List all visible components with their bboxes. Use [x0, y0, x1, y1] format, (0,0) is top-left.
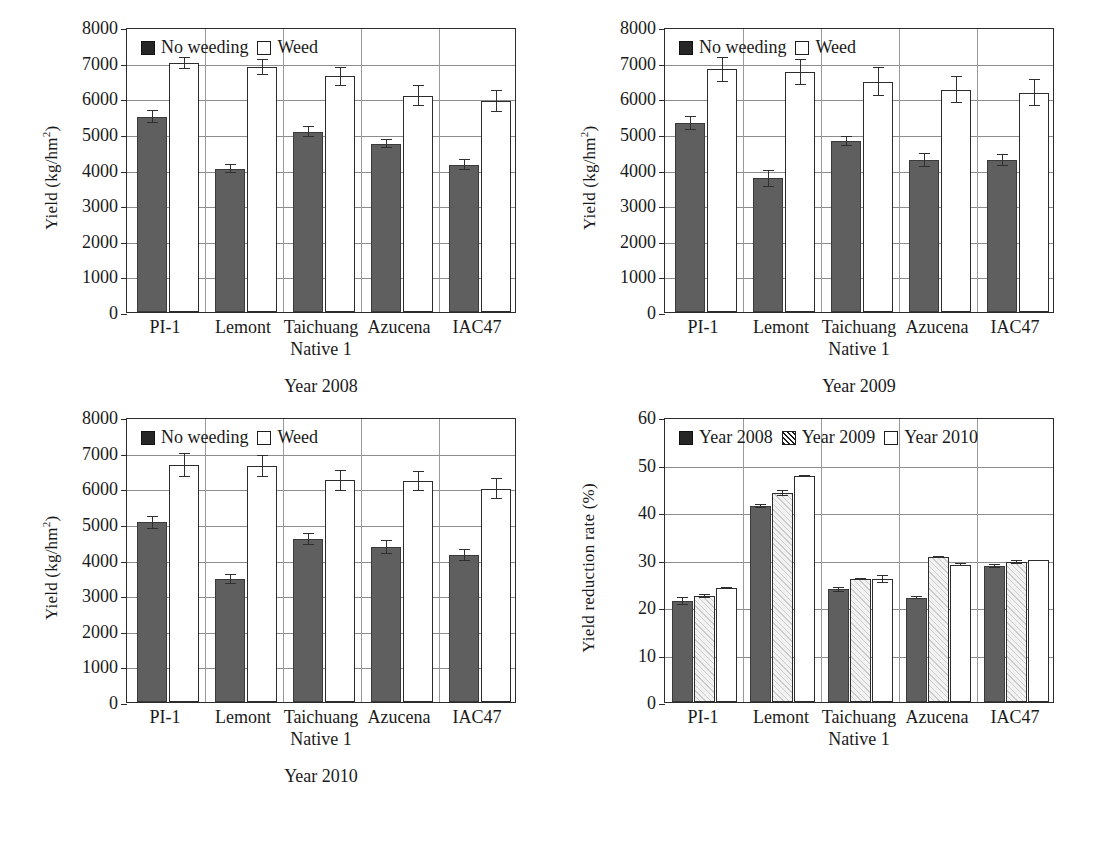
error-bar-cap-bottom [763, 186, 774, 187]
bar [169, 63, 199, 312]
error-bar [386, 139, 387, 148]
bar [863, 82, 893, 312]
y-tick-label: 5000 [82, 126, 118, 144]
error-bar-cap-top [335, 67, 346, 68]
y-tick-label: 2000 [82, 623, 118, 641]
bar [371, 547, 401, 702]
y-tick-label: 3000 [82, 587, 118, 605]
error-bar [184, 453, 185, 477]
bar [137, 522, 167, 702]
bar [984, 566, 1005, 702]
error-bar-cap-bottom [257, 476, 268, 477]
legend-label: Weed [815, 37, 856, 58]
error-bar [464, 159, 465, 170]
legend-item[interactable]: Weed [257, 427, 318, 448]
legend-item[interactable]: No weeding [141, 427, 248, 448]
error-bar-cap-bottom [877, 582, 888, 583]
bar [215, 579, 245, 702]
error-bar [184, 57, 185, 68]
chart-panel-yield-reduction-rate: Yield reduction rate (%)0102030405060Yea… [578, 418, 1078, 818]
legend-item[interactable]: Year 2009 [782, 427, 876, 448]
bar [941, 90, 971, 312]
error-bar-cap-bottom [147, 122, 158, 123]
error-bar-cap-bottom [335, 490, 346, 491]
error-bar-cap-top [335, 470, 346, 471]
x-tick-label: PI-1 [150, 317, 181, 338]
bar [247, 466, 277, 702]
error-bar-cap-top [303, 126, 314, 127]
error-bar-cap-top [225, 574, 236, 575]
error-bar-cap-bottom [777, 495, 788, 496]
legend-item[interactable]: Weed [257, 37, 318, 58]
error-bar-cap-top [1029, 79, 1040, 80]
y-tick-label: 8000 [620, 19, 656, 37]
bar-group [127, 419, 205, 702]
legend-item[interactable]: Year 2010 [884, 427, 978, 448]
error-bar-cap-top [833, 587, 844, 588]
bar-group [977, 419, 1055, 702]
error-bar-cap-bottom [717, 81, 728, 82]
error-bar [262, 59, 263, 75]
bar-group [977, 29, 1055, 312]
error-bar [1034, 79, 1035, 106]
error-bar [782, 490, 783, 497]
error-bar-cap-top [147, 516, 158, 517]
legend-item[interactable]: No weeding [141, 37, 248, 58]
x-tick-label: Azucena [368, 317, 431, 338]
y-axis-tick-labels: 010002000300040005000600070008000 [64, 28, 124, 313]
bar [872, 579, 893, 702]
bar [694, 596, 715, 702]
error-bar-cap-bottom [1011, 563, 1022, 564]
y-tick-label: 50 [638, 457, 656, 475]
error-bar-cap-top [955, 563, 966, 564]
error-bar-cap-bottom [413, 490, 424, 491]
x-tick-label: Taichuang [284, 317, 359, 338]
y-axis-title: Yield reduction rate (%) [576, 418, 602, 718]
error-bar [722, 57, 723, 81]
bar [215, 169, 245, 312]
error-bar [464, 549, 465, 560]
legend-label: Year 2010 [904, 427, 978, 448]
error-bar-cap-top [491, 478, 502, 479]
bar-group [127, 29, 205, 312]
error-bar-cap-bottom [303, 136, 314, 137]
error-bar-cap-bottom [413, 105, 424, 106]
error-bar-cap-bottom [799, 476, 810, 477]
legend-item[interactable]: Year 2008 [679, 427, 773, 448]
panel-caption: Year 2008 [126, 376, 516, 397]
error-bar [152, 516, 153, 529]
error-bar-cap-bottom [855, 579, 866, 580]
legend-item[interactable]: Weed [795, 37, 856, 58]
error-bar [386, 540, 387, 554]
bar [906, 598, 927, 703]
legend-swatch-icon [257, 431, 271, 445]
bar [794, 476, 815, 702]
error-bar-cap-top [303, 533, 314, 534]
legend-label: No weeding [161, 427, 248, 448]
y-tick-label: 5000 [620, 126, 656, 144]
y-tick-label: 3000 [620, 197, 656, 215]
error-bar-cap-top [413, 85, 424, 86]
error-bar-cap-bottom [911, 598, 922, 599]
y-tick-label: 6000 [82, 90, 118, 108]
legend-swatch-icon [795, 41, 809, 55]
bar-group [821, 29, 899, 312]
y-tick-label: 1000 [620, 268, 656, 286]
y-tick-mark [659, 704, 665, 705]
error-bar-cap-bottom [919, 166, 930, 167]
bar [772, 493, 793, 702]
y-axis-tick-labels: 010002000300040005000600070008000 [602, 28, 662, 313]
error-bar-cap-bottom [1033, 560, 1044, 561]
legend-item[interactable]: No weeding [679, 37, 786, 58]
bar [987, 160, 1017, 312]
chart-panel-yield-2008: Yield (kg/hm2)01000200030004000500060007… [40, 28, 540, 428]
y-tick-label: 30 [638, 552, 656, 570]
bar [403, 481, 433, 702]
bar [928, 557, 949, 702]
error-bar [1016, 560, 1017, 565]
x-tick-label: Azucena [906, 707, 969, 728]
bar [785, 72, 815, 312]
error-bar-cap-bottom [225, 583, 236, 584]
legend: No weedingWeed [141, 37, 318, 58]
error-bar-cap-top [877, 575, 888, 576]
